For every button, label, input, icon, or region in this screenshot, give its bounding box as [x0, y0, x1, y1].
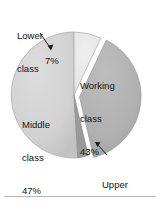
slice-value-middle-class: 47%	[22, 185, 50, 196]
slice-label-lower-class: Lower class	[17, 8, 43, 96]
slice-label-upper-class-line1: Upper	[102, 179, 128, 190]
slice-label-middle-class-line2: class	[22, 152, 50, 163]
slice-label-lower-class-line2: class	[17, 63, 43, 74]
bottom-divider	[4, 196, 156, 197]
slice-value-lower-class: 7%	[45, 55, 59, 66]
slice-label-upper-class: Upper class 3%	[102, 157, 128, 206]
slice-label-middle-class: Middle class 47%	[22, 97, 50, 206]
slice-value-working-class: 43%	[80, 146, 115, 157]
slice-label-working-class-line2: class	[80, 113, 115, 124]
slice-label-middle-class-line1: Middle	[22, 119, 50, 130]
slice-label-working-class-line1: Working	[80, 80, 115, 91]
pie-chart-figure: Lower class 7% Working class 43% Middle …	[0, 0, 160, 206]
slice-label-lower-class-line1: Lower	[17, 30, 43, 41]
